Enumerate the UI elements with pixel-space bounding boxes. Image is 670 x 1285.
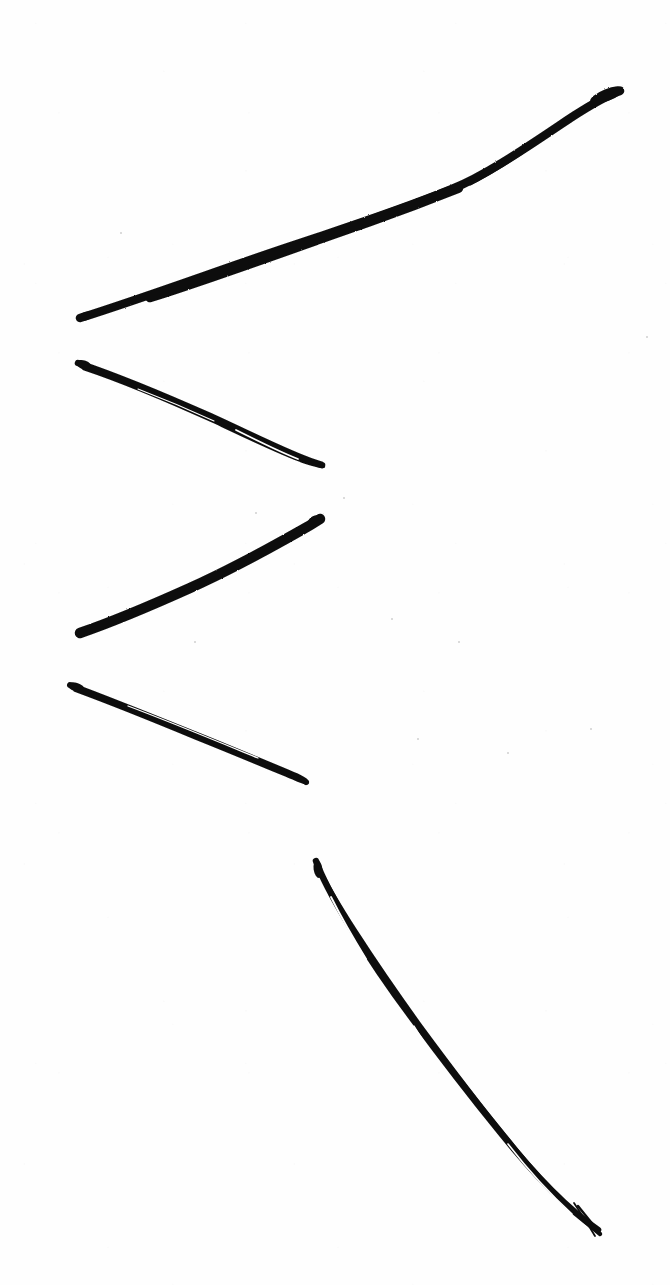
stroke-4-descending-lower (67, 681, 307, 783)
stroke-4-retrace (75, 690, 307, 783)
stroke-5-split-highlight-mid (414, 1026, 466, 1103)
scanned-page (0, 0, 670, 1285)
stroke-5-core (316, 861, 598, 1230)
stroke-4-split-highlight (128, 706, 258, 758)
stroke-5-retrace (318, 866, 600, 1234)
stroke-1-thick-mid (150, 188, 458, 297)
stroke-1-core (80, 91, 620, 318)
stroke-3-core (80, 519, 320, 633)
stroke-5-long-descending-bottom (312, 859, 601, 1236)
stroke-2-split-highlight (236, 430, 298, 459)
stroke-5-fork-tail-b (574, 1203, 595, 1236)
stroke-1-long-ascending (76, 83, 626, 323)
stroke-2-descending-upper (75, 358, 323, 466)
stroke-1-thin-upper (470, 97, 602, 183)
stroke-3-ascending-middle (80, 513, 324, 634)
ink-drawing (0, 0, 670, 1285)
stroke-5-split-highlight-upper (331, 897, 366, 959)
